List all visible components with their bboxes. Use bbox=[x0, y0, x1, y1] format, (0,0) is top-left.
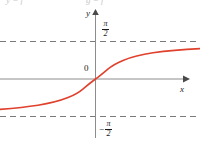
asymptote-top-fraction: π 2 bbox=[102, 20, 109, 39]
asymptote-bottom-numerator: π bbox=[106, 120, 112, 128]
x-axis-label: x bbox=[180, 85, 184, 94]
asymptote-bottom-fraction: π 2 bbox=[105, 120, 112, 139]
asymptote-bottom-label: − π 2 bbox=[99, 120, 112, 139]
arctangent-figure: y = f g = f y x 0 π 2 − π bbox=[0, 0, 200, 145]
y-axis-label: y bbox=[86, 9, 90, 18]
y-axis-arrowhead bbox=[92, 9, 99, 15]
asymptote-top-numerator: π bbox=[102, 20, 108, 28]
asymptote-bottom-sign: − bbox=[99, 125, 104, 134]
asymptote-bottom-denominator: 2 bbox=[106, 130, 112, 138]
x-axis-arrowhead bbox=[183, 76, 190, 83]
asymptote-top-label: π 2 bbox=[101, 20, 109, 39]
asymptote-top-denominator: 2 bbox=[103, 30, 109, 38]
origin-label: 0 bbox=[84, 64, 89, 73]
